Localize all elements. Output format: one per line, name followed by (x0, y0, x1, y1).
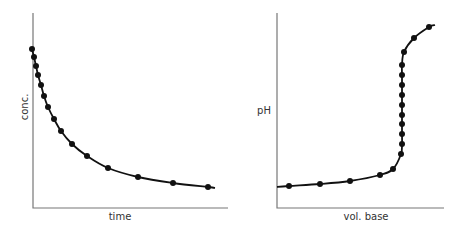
data-point (29, 46, 35, 52)
data-point (135, 174, 141, 180)
data-point (45, 104, 51, 110)
data-point (399, 72, 405, 78)
right-x-axis-label: vol. base (343, 211, 388, 222)
data-point (401, 49, 407, 55)
titration-curve (277, 25, 435, 187)
right-y-axis-label: pH (257, 105, 271, 116)
data-point (41, 93, 47, 99)
data-point (399, 92, 405, 98)
data-point (35, 72, 41, 78)
data-point (38, 82, 44, 88)
left-axes (33, 13, 228, 208)
data-point (399, 102, 405, 108)
data-point (377, 172, 383, 178)
data-point (69, 141, 75, 147)
titration-data-points (286, 24, 432, 189)
data-point (399, 141, 405, 147)
data-point (170, 180, 176, 186)
decay-data-points (29, 46, 211, 190)
data-point (31, 54, 37, 60)
data-point (399, 112, 405, 118)
data-point (105, 165, 111, 171)
data-point (84, 153, 90, 159)
data-point (390, 166, 396, 172)
data-point (317, 181, 323, 187)
data-point (399, 82, 405, 88)
data-point (58, 128, 64, 134)
data-point (399, 131, 405, 137)
left-x-axis-label: time (109, 211, 132, 222)
data-point (51, 116, 57, 122)
data-point (411, 35, 417, 41)
data-point (426, 24, 432, 30)
data-point (399, 121, 405, 127)
data-point (33, 63, 39, 69)
data-point (205, 184, 211, 190)
left-y-axis-label: conc. (19, 94, 30, 121)
data-point (398, 151, 404, 157)
data-point (399, 62, 405, 68)
charts-canvas: time conc. vol. base pH (0, 0, 464, 228)
titration-chart: vol. base pH (257, 13, 444, 222)
data-point (347, 178, 353, 184)
data-point (286, 183, 292, 189)
concentration-chart: time conc. (19, 13, 228, 222)
decay-curve (32, 49, 215, 188)
